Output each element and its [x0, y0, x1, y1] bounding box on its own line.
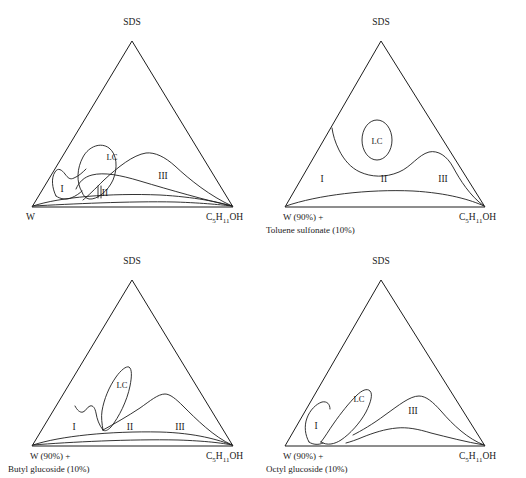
region-III-boundary [353, 396, 484, 445]
left-vertex-label-line2: Butyl glucoside (10%) [8, 464, 90, 474]
left-vertex-label-line1: W (90%) + [283, 212, 323, 222]
panel-toluene-sulfonate: SDS W (90%) + Toluene sulfonate (10%) C5… [263, 0, 526, 239]
region-I-boundary [305, 402, 330, 442]
ternary-diagram-4: SDS W (90%) + Octyl glucoside (10%) C5H1… [263, 239, 526, 478]
lc-region-label: LC [117, 380, 128, 390]
region-label-III: III [438, 174, 448, 184]
triangle-outline [32, 41, 233, 207]
region-label-I: I [320, 174, 323, 184]
inner-wave-boundary [346, 428, 484, 445]
ternary-diagram-2: SDS W (90%) + Toluene sulfonate (10%) C5… [263, 0, 526, 239]
region-label-III: III [408, 406, 418, 416]
lc-region-label: LC [354, 394, 365, 404]
phase-boundary-curve [332, 128, 484, 206]
left-vertex-label-line1: W (90%) + [30, 451, 70, 461]
region-II-boundary [76, 174, 232, 206]
region-label-III: III [175, 422, 185, 432]
region-label-I: I [72, 422, 75, 432]
panel-butyl-glucoside: SDS W (90%) + Butyl glucoside (10%) C5H1… [0, 239, 263, 478]
left-vertex-label: W [26, 212, 35, 222]
region-III-boundary [103, 394, 232, 445]
right-vertex-label: C5H11OH [459, 212, 496, 225]
right-vertex-label: C5H11OH [206, 212, 243, 225]
lc-region-label: LC [107, 152, 118, 162]
figure-container: SDS W C5H11OH I II III LC SDS W (90%) + … [0, 0, 526, 478]
lc-region-label: LC [372, 136, 383, 146]
ternary-diagram-1: SDS W C5H11OH I II III LC [0, 0, 263, 239]
left-vertex-label-line2: Octyl glucoside (10%) [266, 464, 347, 474]
right-vertex-label: C5H11OH [459, 451, 496, 464]
region-label-II: II [381, 174, 387, 184]
base-lens-upper [286, 191, 484, 206]
left-vertex-label-line1: W (90%) + [283, 451, 323, 461]
apex-label: SDS [123, 17, 140, 27]
region-label-I: I [314, 421, 317, 431]
ternary-diagram-3: SDS W (90%) + Butyl glucoside (10%) C5H1… [0, 239, 263, 478]
apex-label: SDS [372, 17, 389, 27]
base-lens-lower [33, 440, 232, 445]
right-vertex-label: C5H11OH [206, 451, 243, 464]
region-label-I: I [60, 184, 63, 194]
panel-sds-water-pentanol: SDS W C5H11OH I II III LC [0, 0, 263, 239]
region-I-boundary [75, 406, 103, 430]
region-label-II: II [127, 422, 133, 432]
region-label-II: II [102, 188, 108, 198]
panel-octyl-glucoside: SDS W (90%) + Octyl glucoside (10%) C5H1… [263, 239, 526, 478]
apex-label: SDS [123, 256, 140, 266]
base-lens-lower [33, 202, 232, 206]
region-label-III: III [158, 171, 168, 181]
apex-label: SDS [372, 256, 389, 266]
left-vertex-label-line2: Toluene sulfonate (10%) [266, 225, 355, 235]
